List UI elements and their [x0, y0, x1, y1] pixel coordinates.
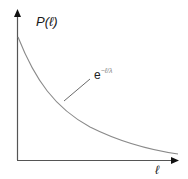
curve-label: e−ℓ/λ — [94, 67, 112, 82]
curve-label-exponent: −ℓ/λ — [101, 67, 113, 74]
curve-label-base: e — [94, 68, 101, 82]
plot-canvas — [0, 0, 188, 179]
x-axis-arrowhead-icon — [171, 157, 179, 164]
decay-curve — [18, 37, 178, 154]
x-axis-label: ℓ — [155, 163, 159, 177]
curve-label-leader-line — [64, 79, 90, 101]
y-axis-label: P(ℓ) — [36, 14, 58, 29]
y-axis-arrowhead-icon — [14, 9, 21, 17]
